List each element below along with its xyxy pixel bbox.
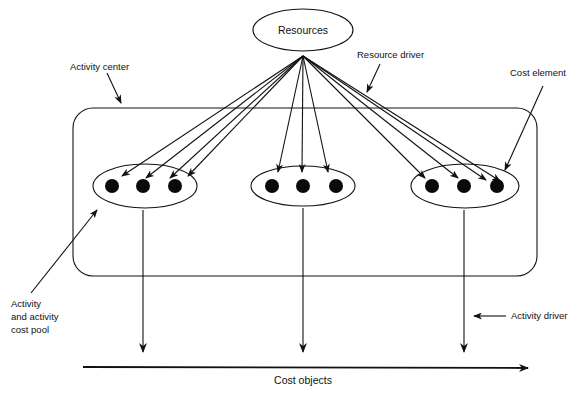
abc-diagram: Resources [0,0,580,394]
cost-element-dot [265,179,279,193]
resource-driver-label: Resource driver [357,49,424,60]
activity-pool-label-3: cost pool [11,324,49,335]
resources-node: Resources [253,9,353,51]
activity-pool-label-2: and activity [11,311,59,322]
resource-driver-arrows [122,56,500,181]
activity-pool-right [411,164,519,208]
cost-element-dot [105,179,119,193]
activity-center-pointer [107,73,121,103]
cost-element-dot [490,179,504,193]
cost-element-dot [136,179,150,193]
activity-pool-label-1: Activity [11,298,41,309]
activity-pool-middle [251,166,355,206]
resources-label: Resources [278,24,328,36]
activity-driver-label: Activity driver [511,310,567,321]
cost-element-dot [425,179,439,193]
cost-objects-label: Cost objects [274,374,332,386]
activity-pool-left [93,164,197,208]
cost-element-dot [457,179,471,193]
cost-element-dot [168,179,182,193]
cost-element-dot [296,179,310,193]
activity-driver-arrows [143,208,464,352]
cost-objects-arrow [83,367,528,368]
activity-pool-pointer [31,210,97,293]
activity-center-label: Activity center [70,61,129,72]
cost-element-label: Cost element [510,67,566,78]
cost-element-dot [329,179,343,193]
resource-driver-pointer [367,64,380,92]
